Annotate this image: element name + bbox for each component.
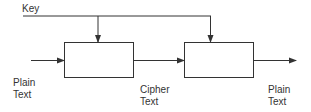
output-label-line1: Plain (268, 84, 290, 96)
input-label: Plain Text (13, 77, 35, 101)
encrypt-block (65, 43, 134, 78)
decrypt-block (185, 43, 254, 78)
cipher-label-line1: Cipher (140, 84, 169, 96)
output-label: Plain Text (268, 84, 290, 108)
input-label-line1: Plain (13, 77, 35, 89)
key-label: Key (22, 3, 39, 15)
input-label-line2: Text (13, 89, 35, 101)
output-label-line2: Text (268, 96, 290, 108)
cipher-label: Cipher Text (140, 84, 169, 108)
cipher-label-line2: Text (140, 96, 169, 108)
